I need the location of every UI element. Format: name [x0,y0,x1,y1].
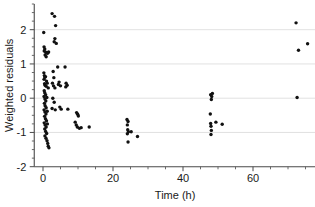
x-tick-label: 60 [247,172,259,184]
data-point [221,123,224,126]
x-tick-label: 20 [107,172,119,184]
data-point [46,110,49,113]
data-point [64,85,67,88]
data-point [209,125,212,128]
data-point [53,86,56,89]
y-tick-labels-group: 210-1-2 [16,24,26,173]
y-axis-title: Weighted residuals [3,38,15,132]
data-point [59,84,62,87]
gridlines-group [34,30,315,133]
x-axis-title: Time (h) [155,189,196,201]
data-point [77,114,80,117]
data-point [214,120,217,123]
data-point [210,95,213,98]
data-point [46,81,49,84]
plot-canvas: 0204060 210-1-2 Time (h) Weighted residu… [0,0,315,207]
y-tickmarks-group [30,4,315,167]
data-points-group [42,12,309,150]
y-tick-label: 2 [20,24,26,36]
data-point [44,75,47,78]
data-point [53,101,56,104]
data-point [306,42,309,45]
data-point [53,40,56,43]
data-point [297,49,300,52]
data-point [88,125,91,128]
data-point [60,107,63,110]
data-point [47,86,50,89]
data-point [126,120,129,123]
data-point [56,65,59,68]
y-tick-label: -2 [16,161,26,173]
data-point [53,37,56,40]
data-point [126,132,129,135]
x-tick-labels-group: 0204060 [40,172,259,184]
data-point [53,15,56,18]
axis-spines-group [34,4,315,167]
data-point [136,135,139,138]
data-point [210,129,213,132]
data-point [50,12,53,15]
x-tick-label: 40 [177,172,189,184]
data-point [45,96,48,99]
data-point [295,96,298,99]
data-point [52,76,55,79]
data-point [44,55,47,58]
y-tick-label: 1 [20,58,26,70]
data-point [294,21,297,24]
data-point [46,122,49,125]
data-point [50,107,53,110]
data-point [54,108,57,111]
data-point [210,98,213,101]
y-tick-label: 0 [20,92,26,104]
data-point [63,65,66,68]
data-point [47,50,50,53]
data-point [66,107,69,110]
data-point [54,24,57,27]
data-point [51,70,54,73]
data-point [130,130,133,133]
data-point [42,31,45,34]
y-tick-label: -1 [16,126,26,138]
data-point [51,97,54,100]
data-point [211,92,214,95]
data-point [126,123,129,126]
data-point [209,133,212,136]
x-tickmarks-group [43,167,306,172]
data-point [47,146,50,149]
data-point [209,112,212,115]
residual-scatter-figure: 0204060 210-1-2 Time (h) Weighted residu… [0,0,315,207]
x-tick-label: 0 [40,172,46,184]
data-point [79,126,82,129]
data-point [126,140,129,143]
